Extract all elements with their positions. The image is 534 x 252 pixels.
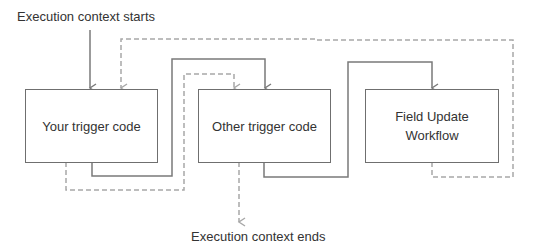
node-label: Other trigger code <box>212 117 317 136</box>
node-other-trigger-code: Other trigger code <box>198 89 331 163</box>
flow-diagram: Execution context starts Your trigger co… <box>0 0 534 252</box>
start-label: Execution context starts <box>17 9 155 24</box>
node-label: Your trigger code <box>42 117 141 136</box>
node-label-line2: Workflow <box>405 126 458 145</box>
node-label-line1: Field Update <box>395 107 469 126</box>
node-field-update-workflow: Field Update Workflow <box>365 89 499 163</box>
end-label: Execution context ends <box>191 229 325 244</box>
node-your-trigger-code: Your trigger code <box>25 89 158 163</box>
